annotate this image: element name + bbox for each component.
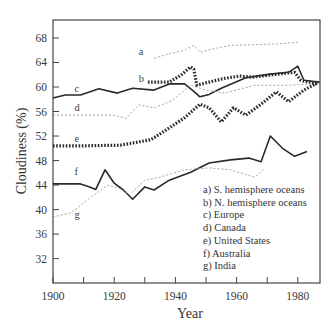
legend-entry: c) Europe	[203, 209, 244, 221]
y-axis-title: Cloudiness (%)	[14, 107, 30, 194]
series-label-d: d	[74, 102, 80, 113]
series-line-b	[148, 67, 316, 85]
y-tick-label: 64	[36, 56, 48, 68]
x-tick-label: 1980	[286, 290, 309, 302]
series-label-a: a	[139, 46, 144, 57]
x-tick-label: 1940	[164, 290, 187, 302]
y-tick-label: 56	[36, 106, 48, 118]
cloudiness-chart: 32364044485256606468 1900192019401960198…	[0, 0, 336, 335]
y-tick-label: 48	[36, 155, 48, 167]
y-tick-label: 44	[36, 179, 48, 191]
series-line-d	[53, 84, 316, 118]
x-tick-label: 1900	[42, 290, 65, 302]
y-tick-label: 40	[36, 204, 48, 216]
series-label-g: g	[74, 209, 80, 220]
y-tick-label: 52	[36, 130, 48, 142]
x-tick-label: 1960	[225, 290, 248, 302]
legend: a) S. hemisphere oceansb) N. hemisphere …	[203, 184, 307, 272]
series-label-b: b	[139, 73, 144, 84]
series-labels: abcdefg	[74, 46, 144, 221]
series-label-f: f	[74, 166, 78, 177]
series-label-c: c	[74, 83, 79, 94]
series-line-a	[154, 42, 298, 58]
legend-entry: a) S. hemisphere oceans	[203, 184, 304, 196]
legend-entry: g) India	[203, 260, 236, 272]
series-line-c	[53, 66, 319, 98]
legend-entry: f) Australia	[203, 248, 251, 260]
series-label-e: e	[74, 133, 79, 144]
legend-entry: b) N. hemisphere oceans	[203, 197, 307, 209]
y-tick-label: 32	[36, 253, 48, 265]
y-tick-label: 60	[36, 81, 48, 93]
y-tick-label: 36	[36, 228, 48, 240]
x-axis-title: Year	[177, 306, 203, 321]
y-axis: 32364044485256606468	[36, 32, 60, 265]
plot-frame	[53, 20, 320, 283]
legend-entry: d) Canada	[203, 222, 246, 234]
x-axis: 19001920194019601980	[42, 277, 310, 302]
x-tick-label: 1920	[103, 290, 126, 302]
y-tick-label: 68	[36, 32, 48, 44]
legend-entry: e) United States	[203, 235, 270, 247]
